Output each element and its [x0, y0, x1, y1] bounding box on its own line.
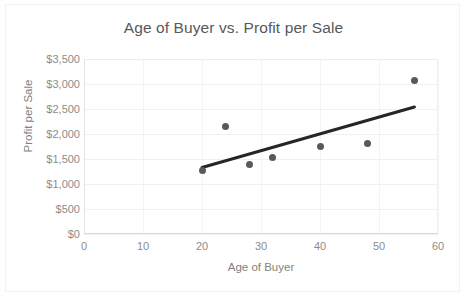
x-axis-tick-label: 20	[196, 240, 208, 252]
x-axis-tick-label: 30	[255, 240, 267, 252]
plot-area	[84, 59, 438, 234]
x-axis-tick-label: 40	[314, 240, 326, 252]
y-axis-tick-label: $500	[56, 203, 80, 215]
y-axis-tick-label: $3,500	[46, 53, 80, 65]
x-axis-title: Age of Buyer	[84, 261, 438, 273]
x-axis-tick-labels: 0102030405060	[84, 240, 438, 256]
chart-container: Age of Buyer vs. Profit per Sale Profit …	[5, 4, 460, 292]
y-axis-tick-label: $3,000	[46, 78, 80, 90]
scatter-point	[199, 167, 206, 174]
gridline-vertical	[438, 59, 439, 234]
scatter-point	[246, 161, 253, 168]
trendline	[84, 59, 438, 234]
chart-title: Age of Buyer vs. Profit per Sale	[6, 19, 461, 37]
x-axis-tick-label: 10	[137, 240, 149, 252]
x-axis-tick-label: 60	[432, 240, 444, 252]
y-axis-tick-label: $1,500	[46, 153, 80, 165]
y-axis-tick-label: $1,000	[46, 178, 80, 190]
y-axis-tick-labels: $0$500$1,000$1,500$2,000$2,500$3,000$3,5…	[24, 59, 80, 234]
y-axis-tick-label: $2,000	[46, 128, 80, 140]
y-axis-tick-label: $2,500	[46, 103, 80, 115]
y-axis-tick-label: $0	[68, 228, 80, 240]
x-axis-tick-label: 0	[81, 240, 87, 252]
scatter-point	[411, 77, 418, 84]
scatter-point	[317, 143, 324, 150]
scatter-point	[364, 140, 371, 147]
x-axis-tick-label: 50	[373, 240, 385, 252]
gridline-horizontal	[84, 234, 438, 235]
